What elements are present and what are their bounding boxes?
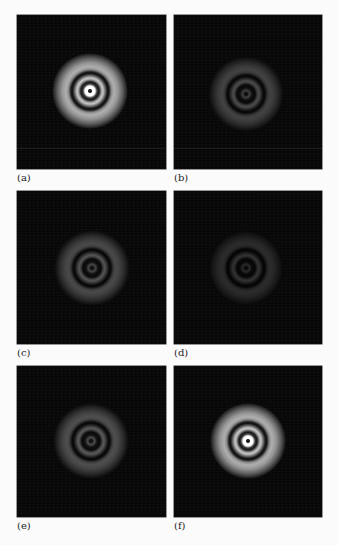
ring-pattern (208, 56, 284, 132)
panel-label-b: (b) (174, 172, 188, 183)
diffraction-panel-e (17, 366, 166, 517)
scan-line (17, 148, 166, 149)
diffraction-panel-f (174, 366, 322, 517)
panel-label-c: (c) (17, 347, 30, 358)
panel-label-f: (f) (174, 520, 186, 531)
diffraction-panel-d (174, 191, 322, 344)
diffraction-panel-c (17, 191, 166, 344)
diffraction-panel-a (17, 15, 166, 169)
ring-pattern (210, 403, 286, 479)
ring-pattern (54, 230, 130, 306)
ring-pattern (52, 53, 128, 129)
scan-line (174, 148, 322, 149)
ring-pattern (53, 403, 129, 479)
panel-label-d: (d) (174, 347, 188, 358)
diffraction-panel-b (174, 15, 322, 169)
panel-label-a: (a) (17, 172, 31, 183)
ring-pattern (208, 230, 284, 306)
panel-label-e: (e) (17, 520, 31, 531)
